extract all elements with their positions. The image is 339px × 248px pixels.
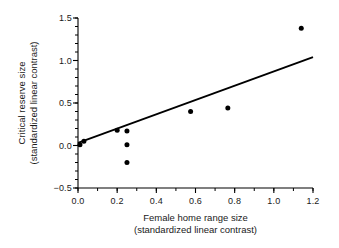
data-point	[225, 106, 230, 111]
y-axis-title-line-2: (standardized linear contrast)	[28, 13, 40, 193]
data-point	[124, 142, 129, 147]
y-tick-label: −0.5	[38, 183, 72, 193]
x-tick-label: 1.0	[267, 196, 280, 206]
major-tick-marks	[73, 18, 313, 193]
y-tick-label: 0.5	[38, 98, 72, 108]
x-tick-label: 0.4	[150, 196, 163, 206]
data-point	[124, 129, 129, 134]
x-axis-title-line-1: Female home range size	[78, 212, 313, 224]
data-point	[124, 160, 129, 165]
data-point	[77, 142, 82, 147]
x-axis-title: Female home range size (standardized lin…	[78, 212, 313, 236]
x-tick-label: 0.6	[189, 196, 202, 206]
y-axis-title: Critical reserve size (standardized line…	[16, 13, 40, 193]
scatter-plot-figure: −0.50.00.51.01.5 0.00.20.40.60.81.01.2 F…	[0, 0, 339, 248]
chart-canvas	[0, 0, 339, 248]
data-point	[81, 139, 86, 144]
data-point	[115, 128, 120, 133]
regression-trend-line	[78, 57, 313, 143]
y-axis-title-line-1: Critical reserve size	[16, 13, 28, 193]
y-tick-label: 0.0	[38, 141, 72, 151]
x-tick-label: 0.8	[228, 196, 241, 206]
data-point	[299, 26, 304, 31]
x-axis-title-line-2: (standardized linear contrast)	[78, 224, 313, 236]
y-tick-label: 1.0	[38, 56, 72, 66]
data-point-markers	[77, 26, 303, 165]
axis-lines	[78, 18, 313, 188]
x-tick-label: 0.0	[71, 196, 84, 206]
data-point	[188, 109, 193, 114]
x-tick-label: 1.2	[306, 196, 319, 206]
minor-tick-marks	[75, 18, 313, 191]
y-tick-label: 1.5	[38, 13, 72, 23]
x-tick-label: 0.2	[111, 196, 124, 206]
